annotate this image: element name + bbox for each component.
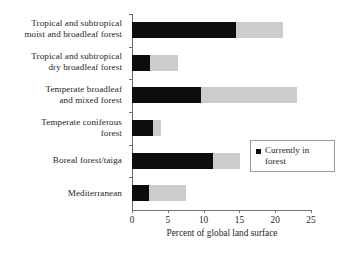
x-axis-tick (311, 210, 312, 213)
x-axis-tick (132, 210, 133, 213)
x-axis-tick-label: 10 (199, 215, 208, 225)
y-axis-tick (129, 79, 132, 80)
category-label-line: moist and broadleaf forest (24, 29, 122, 39)
y-axis-tick (129, 47, 132, 48)
category-label-line: forest (101, 128, 122, 138)
category-label-temperate-broadleaf: Temperate broadleaf and mixed forest (0, 84, 122, 105)
bar-segment-remaining (153, 120, 162, 136)
y-axis-tick (129, 145, 132, 146)
bar-segment-remaining (149, 185, 186, 201)
y-axis-tick (129, 112, 132, 113)
x-axis-tick (239, 210, 240, 213)
x-axis-tick (275, 210, 276, 213)
category-label-line: Temperate broadleaf (45, 84, 122, 94)
legend-entry-label-line: forest (265, 156, 286, 166)
x-axis-tick-label: 5 (165, 215, 170, 225)
category-label-line: and mixed forest (59, 95, 122, 105)
category-label-line: Mediterranean (68, 188, 122, 198)
bar-segment-currently-in-forest (132, 120, 153, 136)
legend-swatch-icon (256, 149, 261, 154)
category-label-line: dry broadleaf forest (48, 62, 122, 72)
bar-segment-remaining (201, 87, 297, 103)
y-axis-tick (129, 14, 132, 15)
plot-area: 0 5 10 15 20 25 (132, 14, 311, 210)
bar-segment-remaining (213, 153, 240, 169)
legend-entry-label-line: Currently in (265, 145, 309, 155)
bar-segment-currently-in-forest (132, 153, 213, 169)
x-axis-tick (168, 210, 169, 213)
stacked-bar-chart: Tropical and subtropical moist and broad… (0, 0, 341, 259)
bar-segment-currently-in-forest (132, 185, 149, 201)
bar-segment-currently-in-forest (132, 87, 201, 103)
category-label-line: Temperate coniferous (41, 117, 122, 127)
category-label-line: Boreal forest/taiga (53, 155, 122, 165)
x-axis-line (132, 210, 312, 211)
category-label-mediterranean: Mediterranean (0, 188, 122, 199)
bar-segment-remaining (150, 55, 178, 71)
x-axis-tick-label: 15 (235, 215, 244, 225)
bar-segment-remaining (236, 22, 283, 38)
chart-legend: Currently in forest (250, 140, 335, 172)
y-axis-category-labels: Tropical and subtropical moist and broad… (0, 14, 126, 210)
category-label-tropical-moist: Tropical and subtropical moist and broad… (0, 18, 122, 39)
bar-segment-currently-in-forest (132, 22, 236, 38)
x-axis-title: Percent of global land surface (132, 228, 312, 239)
x-axis-tick (204, 210, 205, 213)
legend-entry-currently-in-forest: Currently in forest (256, 145, 329, 166)
x-axis-tick-label: 25 (306, 215, 315, 225)
category-label-tropical-dry: Tropical and subtropical dry broadleaf f… (0, 51, 122, 72)
x-axis-tick-label: 0 (130, 215, 135, 225)
category-label-line: Tropical and subtropical (31, 51, 122, 61)
legend-entry-label: Currently in forest (265, 145, 309, 166)
category-label-line: Tropical and subtropical (31, 18, 122, 28)
y-axis-tick (129, 177, 132, 178)
bar-segment-currently-in-forest (132, 55, 150, 71)
x-axis-tick-label: 20 (271, 215, 280, 225)
category-label-temperate-coniferous: Temperate coniferous forest (0, 117, 122, 138)
category-label-boreal: Boreal forest/taiga (0, 155, 122, 166)
